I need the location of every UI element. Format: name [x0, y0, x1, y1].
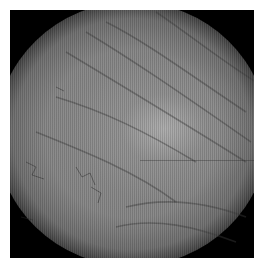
scan-line-texture — [10, 10, 254, 258]
fundus-image-frame — [10, 10, 254, 258]
retina-field — [10, 10, 254, 258]
horizontal-artifact-line — [140, 160, 254, 161]
